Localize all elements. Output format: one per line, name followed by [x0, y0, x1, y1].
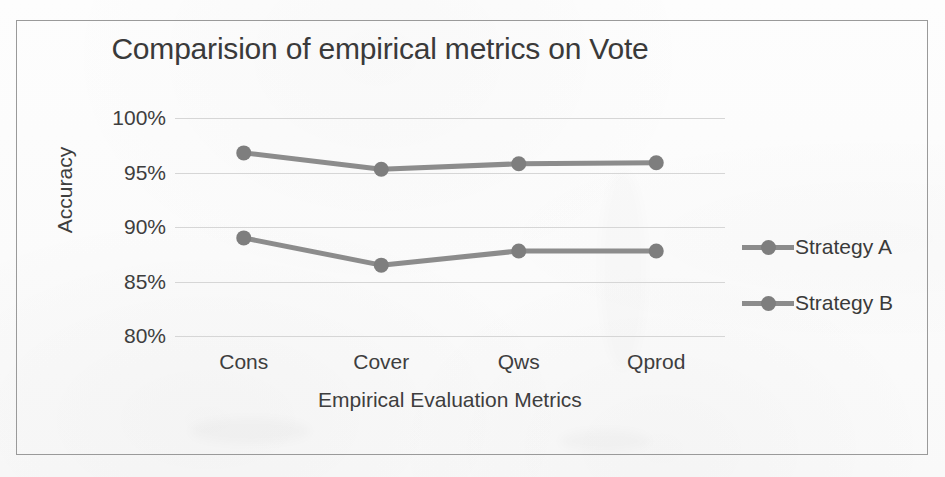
y-axis-tick-label: 80% — [80, 324, 166, 348]
legend-line-marker-icon — [742, 239, 794, 255]
data-point-marker — [649, 243, 664, 258]
y-axis-tick-label: 100% — [80, 106, 166, 130]
chart-legend: Strategy AStrategy B — [742, 232, 922, 344]
x-axis-tick-label: Cons — [174, 350, 314, 374]
x-axis-tick-labels: ConsCoverQwsQprod — [175, 350, 725, 378]
data-point-marker — [649, 155, 664, 170]
data-point-marker — [374, 162, 389, 177]
legend-label: Strategy B — [795, 291, 893, 315]
y-axis-tick-label: 95% — [80, 161, 166, 185]
data-point-marker — [236, 230, 251, 245]
y-axis-tick-label: 90% — [80, 215, 166, 239]
y-axis-title: Accuracy — [53, 120, 77, 260]
x-axis-tick-label: Qprod — [586, 350, 726, 374]
x-axis-tick-label: Cover — [311, 350, 451, 374]
series-line — [244, 153, 657, 169]
legend-entry[interactable]: Strategy B — [742, 288, 922, 318]
data-point-marker — [511, 243, 526, 258]
legend-line-marker-icon — [742, 295, 794, 311]
legend-label: Strategy A — [795, 235, 892, 259]
legend-entry[interactable]: Strategy A — [742, 232, 922, 262]
y-axis-tick-label: 85% — [80, 270, 166, 294]
x-axis-tick-label: Qws — [449, 350, 589, 374]
data-point-marker — [236, 145, 251, 160]
series-lines — [175, 118, 725, 336]
data-point-marker — [511, 156, 526, 171]
plot-area — [175, 118, 725, 336]
y-axis-tick-labels: 100%95%90%85%80% — [80, 118, 166, 336]
chart-title: Comparision of empirical metrics on Vote — [0, 32, 760, 66]
gridline — [175, 336, 725, 337]
data-point-marker — [374, 258, 389, 273]
x-axis-title: Empirical Evaluation Metrics — [175, 388, 725, 412]
series-line — [244, 238, 657, 265]
